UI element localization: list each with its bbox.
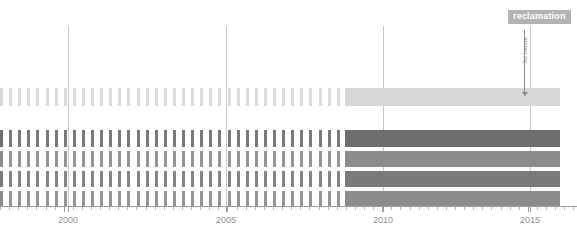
reclamation-badge: reclamation — [508, 10, 571, 24]
timeline-chart: 2000200520102015 Sd Inesta reclamation — [0, 0, 577, 242]
reclamation-annotation: Sd Inesta — [0, 0, 577, 242]
annotation-label: Sd Inesta — [522, 37, 528, 64]
annotation-arrow-icon — [522, 92, 528, 96]
